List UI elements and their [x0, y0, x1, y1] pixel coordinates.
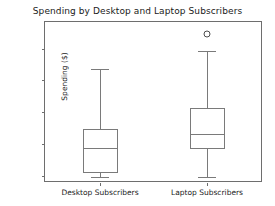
whisker-upper-laptop: [207, 51, 208, 108]
box-desktop: [83, 129, 118, 173]
x-tick-label-laptop: Laptop Subscribers: [147, 188, 267, 197]
whisker-cap-lower-desktop: [91, 177, 109, 178]
whisker-lower-laptop: [207, 149, 208, 177]
plot-area: Spending ($) 4000 3000 2000 1000 0 Deskt…: [44, 21, 262, 182]
y-tick-mark-1000: [42, 144, 45, 145]
x-tick-mark-laptop: [207, 183, 208, 186]
x-tick-label-desktop: Desktop Subscribers: [40, 188, 160, 197]
whisker-cap-upper-desktop: [91, 69, 109, 70]
y-tick-mark-0: [42, 176, 45, 177]
y-tick-mark-3000: [42, 80, 45, 81]
whisker-upper-desktop: [100, 69, 101, 129]
chart-title: Spending by Desktop and Laptop Subscribe…: [0, 6, 275, 16]
y-tick-mark-4000: [42, 49, 45, 50]
boxplot-figure: Spending by Desktop and Laptop Subscribe…: [0, 0, 275, 206]
whisker-cap-upper-laptop: [198, 51, 216, 52]
x-tick-mark-desktop: [100, 183, 101, 186]
y-axis-label: Spending ($): [60, 32, 69, 122]
whisker-cap-lower-laptop: [198, 177, 216, 178]
median-desktop: [83, 148, 118, 149]
median-laptop: [190, 134, 225, 135]
outlier-marker-laptop: [204, 31, 211, 38]
box-laptop: [190, 108, 225, 149]
y-tick-mark-2000: [42, 112, 45, 113]
